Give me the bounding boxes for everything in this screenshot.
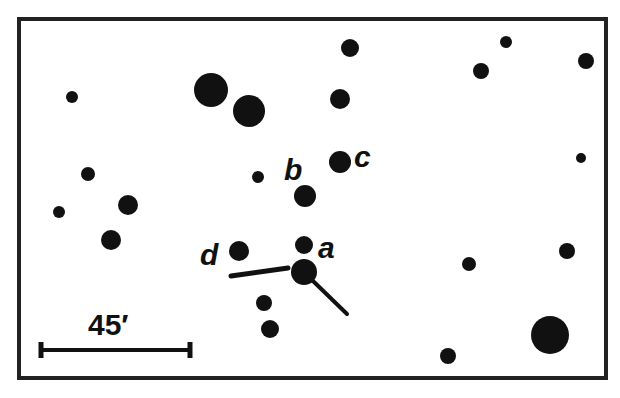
star-dot (500, 36, 512, 48)
star-dot (329, 151, 351, 173)
star-dot (261, 320, 279, 338)
star-dot (233, 95, 265, 127)
pointer-line (312, 280, 347, 314)
star-dot (294, 185, 316, 207)
star-dot (252, 171, 264, 183)
scale-bar-label: 45′ (88, 308, 129, 341)
star-dot (576, 153, 586, 163)
star-dot (101, 230, 121, 250)
star-dot (578, 53, 594, 69)
star-label-c: c (354, 140, 371, 173)
star-dot (81, 167, 95, 181)
star-dot (559, 243, 575, 259)
star-dot (462, 257, 476, 271)
star-dot (330, 89, 350, 109)
star-dot (53, 206, 65, 218)
pointer-lines (231, 268, 347, 314)
star-dot (118, 195, 138, 215)
star-label-a: a (318, 231, 335, 264)
star-dot (229, 241, 249, 261)
pointer-line (231, 268, 288, 276)
star-label-b: b (284, 153, 302, 186)
star-dot (440, 348, 456, 364)
star-dot (473, 63, 489, 79)
star-dot (66, 91, 78, 103)
star-dot (256, 295, 272, 311)
star-field (53, 36, 594, 364)
star-label-d: d (200, 238, 219, 271)
star-dot (531, 316, 569, 354)
star-dot (295, 236, 313, 254)
star-chart: abcd 45′ (0, 0, 620, 398)
star-dot (341, 39, 359, 57)
star-dot (194, 73, 228, 107)
scale-bar: 45′ (41, 308, 190, 358)
